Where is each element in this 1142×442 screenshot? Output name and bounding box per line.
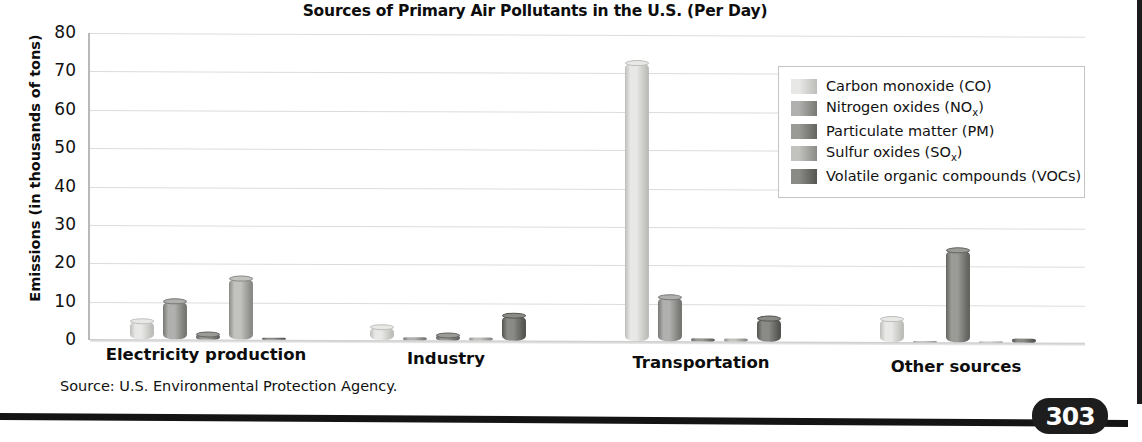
bar-sox: [979, 341, 1003, 343]
bar-group: [370, 34, 526, 342]
y-tick-0: 0: [16, 329, 76, 349]
bar-cap: [163, 299, 187, 305]
bar-vocs: [1012, 339, 1036, 343]
bar-co: [370, 327, 394, 341]
chart-title: Sources of Primary Air Pollutants in the…: [0, 2, 1070, 20]
legend-swatch-sox: [791, 146, 817, 161]
legend-label-vocs: Volatile organic compounds (VOCs): [826, 168, 1081, 184]
legend-label-pm: Particulate matter (PM): [826, 123, 994, 139]
page-edge-line: [1137, 0, 1142, 404]
bar-cap: [502, 313, 526, 319]
bar-cap: [757, 316, 781, 322]
bar-cap: [658, 294, 682, 300]
bar-cap: [370, 324, 394, 330]
bar-vocs: [757, 319, 781, 342]
y-tick-10: 10: [16, 291, 76, 311]
legend-label-sox: Sulfur oxides (SOx): [826, 144, 962, 163]
legend-swatch-pm: [791, 124, 817, 139]
legend-item: Volatile organic compounds (VOCs): [791, 165, 1074, 188]
bar-group: [625, 35, 781, 343]
legend-item: Nitrogen oxides (NOx): [791, 98, 1074, 121]
bar-co: [625, 63, 649, 341]
bar-pm: [691, 338, 715, 341]
page-number-badge: 303: [1032, 398, 1108, 434]
bar-cap: [880, 316, 904, 322]
footer-rule: [0, 413, 1128, 427]
legend-item: Sulfur oxides (SOx): [791, 143, 1074, 166]
y-tick-60: 60: [16, 99, 76, 119]
bar-vocs: [262, 338, 286, 340]
legend-label-co: Carbon monoxide (CO): [826, 78, 992, 94]
legend-item: Carbon monoxide (CO): [791, 75, 1074, 98]
bar-cap: [196, 332, 220, 338]
bar-nox: [913, 341, 937, 343]
bar-sox: [724, 338, 748, 342]
bar-pm: [196, 335, 220, 340]
bar-pm: [436, 336, 460, 341]
source-note: Source: U.S. Environmental Protection Ag…: [60, 378, 397, 394]
bar-vocs: [502, 316, 526, 341]
legend-item: Particulate matter (PM): [791, 120, 1074, 143]
bar-cap: [229, 276, 253, 282]
y-tick-40: 40: [16, 176, 76, 196]
legend-label-nox: Nitrogen oxides (NOx): [826, 99, 984, 118]
bar-sox: [229, 279, 253, 340]
bar-group: [130, 33, 286, 341]
bar-nox: [163, 302, 187, 340]
y-axis-tick-labels: 80706050403020100: [0, 33, 82, 340]
bar-cap: [130, 318, 154, 324]
y-tick-70: 70: [16, 60, 76, 80]
bar-nox: [658, 297, 682, 341]
y-tick-20: 20: [16, 252, 76, 272]
category-label: Other sources: [826, 357, 1086, 376]
bar-chart: Sources of Primary Air Pollutants in the…: [0, 0, 1142, 400]
legend-swatch-nox: [791, 101, 817, 116]
bar-co: [880, 319, 904, 342]
bar-nox: [403, 337, 427, 340]
y-tick-50: 50: [16, 137, 76, 157]
y-tick-30: 30: [16, 214, 76, 234]
category-label: Electricity production: [76, 345, 336, 364]
legend-swatch-co: [791, 79, 817, 94]
category-label: Transportation: [571, 353, 831, 372]
y-tick-80: 80: [16, 22, 76, 42]
bar-sox: [469, 337, 493, 340]
bar-cap: [625, 60, 649, 66]
category-label: Industry: [316, 349, 576, 368]
chart-legend: Carbon monoxide (CO)Nitrogen oxides (NOx…: [778, 66, 1085, 198]
bar-co: [130, 321, 154, 339]
legend-swatch-vocs: [791, 169, 817, 184]
page-frame: Sources of Primary Air Pollutants in the…: [0, 0, 1142, 442]
bar-pm: [946, 250, 970, 342]
bar-cap: [946, 247, 970, 253]
bar-cap: [436, 333, 460, 339]
